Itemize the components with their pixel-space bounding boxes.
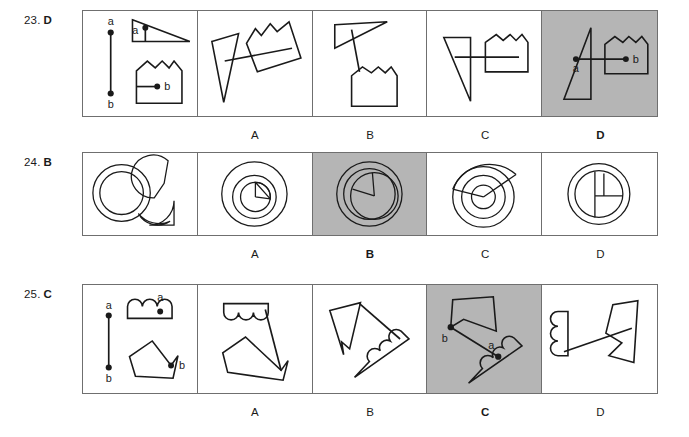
option-letter-25-B[interactable]: B [312,406,427,418]
stem-shape-label-a-25: a [157,291,164,303]
option-point-label-a-23-D: a [573,62,580,74]
stem-shape-label-a-23: a [132,24,139,36]
question-answer-23: D [44,14,53,26]
option-panel-24-A[interactable] [198,153,313,235]
question-answer-24: B [44,156,53,168]
option-letter-row-25: A B C D [82,406,658,418]
answer-key-page: 23.D a b a [0,0,689,437]
option-letter-25-D[interactable]: D [543,406,658,418]
question-number-23: 23. [24,14,41,26]
stem-point-label-a-23: a [108,15,115,27]
option-grid-23: a b a b [82,10,658,117]
option-letter-spacer-25 [82,406,197,418]
option-panel-23-B[interactable] [313,11,428,116]
option-letter-row-23: A B C D [82,129,658,141]
option-letter-24-B[interactable]: B [312,248,427,260]
option-panel-24-B[interactable] [313,153,428,235]
option-grid-24 [82,152,658,236]
stem-shape-label-b-25: b [179,359,185,371]
question-label-24: 24.B [24,156,52,168]
option-panel-24-D[interactable] [542,153,657,235]
option-letter-24-C[interactable]: C [428,248,543,260]
option-letter-24-A[interactable]: A [197,248,312,260]
option-letter-25-A[interactable]: A [197,406,312,418]
option-letter-row-24: A B C D [82,248,658,260]
option-letter-23-A[interactable]: A [197,129,312,141]
option-letter-spacer-23 [82,129,197,141]
question-label-23: 23.D [24,14,52,26]
question-label-25: 25.C [24,288,52,300]
question-number-24: 24. [24,156,41,168]
stem-panel-24 [83,153,198,235]
option-panel-23-C[interactable] [427,11,542,116]
option-letter-25-C[interactable]: C [428,406,543,418]
option-panel-23-D[interactable]: a b [542,11,657,116]
option-letter-24-D[interactable]: D [543,248,658,260]
option-point-label-b-25-C: b [442,332,448,344]
option-letter-23-D[interactable]: D [543,129,658,141]
stem-point-label-a-25: a [106,299,113,311]
option-panel-25-D[interactable] [542,285,657,393]
stem-point-label-b-25: b [106,372,112,384]
option-panel-25-A[interactable] [198,285,313,393]
option-panel-23-A[interactable] [198,11,313,116]
question-number-25: 25. [24,288,41,300]
option-letter-spacer-24 [82,248,197,260]
option-point-label-a-25-C: a [489,339,496,351]
option-letter-23-C[interactable]: C [428,129,543,141]
option-point-label-b-23-D: b [633,53,639,65]
option-panel-25-B[interactable] [313,285,428,393]
stem-shape-label-b-23: b [164,81,170,93]
question-answer-25: C [44,288,53,300]
stem-panel-23: a b a b [83,11,198,116]
stem-panel-25: a b a b [83,285,198,393]
option-letter-23-B[interactable]: B [312,129,427,141]
option-panel-24-C[interactable] [427,153,542,235]
option-panel-25-C[interactable]: b a [427,285,542,393]
stem-point-label-b-23: b [108,98,114,110]
option-grid-25: a b a b [82,284,658,394]
